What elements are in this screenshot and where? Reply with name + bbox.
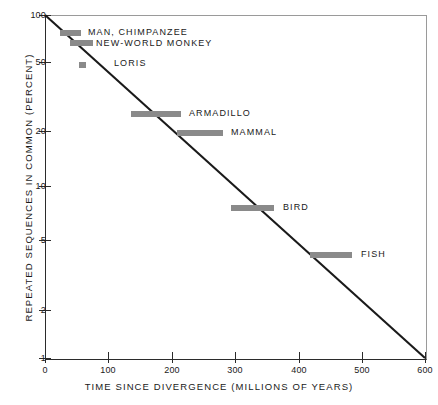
x-tick-label-100: 100 xyxy=(93,365,123,375)
data-label-man-chimpanzee: MAN, CHIMPANZEE xyxy=(88,27,188,38)
x-tick-mark-200 xyxy=(172,352,173,363)
data-bar-bird xyxy=(231,205,274,211)
y-tick-label-10: 10 xyxy=(36,181,46,191)
data-label-loris: LORIS xyxy=(114,58,147,69)
y-tick-label-100: 100 xyxy=(30,10,46,20)
x-tick-label-600: 600 xyxy=(410,365,438,375)
data-label-mammal: MAMMAL xyxy=(231,127,277,138)
x-tick-mark-500 xyxy=(362,352,363,363)
x-tick-label-200: 200 xyxy=(157,365,187,375)
data-bar-mammal xyxy=(177,130,223,136)
data-label-armadillo: ARMADILLO xyxy=(189,108,251,119)
y-tick-label-2: 2 xyxy=(41,305,46,315)
x-tick-mark-400 xyxy=(299,352,300,363)
data-label-fish: FISH xyxy=(361,249,386,260)
x-tick-label-400: 400 xyxy=(284,365,314,375)
data-bar-new-world-monkey xyxy=(70,40,93,46)
data-label-new-world-monkey: NEW-WORLD MONKEY xyxy=(96,38,212,49)
data-bar-man-chimpanzee xyxy=(60,30,81,36)
data-bar-armadillo xyxy=(131,111,181,117)
data-bar-fish xyxy=(310,252,352,258)
y-axis-title: REPEATED SEQUENCES IN COMMON (PERCENT) xyxy=(23,28,34,348)
chart-figure: 100 50 20 10 5 2 1 0 100 200 300 400 500… xyxy=(0,0,438,405)
plot-area-frame xyxy=(45,15,427,360)
x-tick-label-300: 300 xyxy=(220,365,250,375)
data-bar-loris xyxy=(79,62,86,68)
x-tick-mark-300 xyxy=(235,352,236,363)
y-tick-label-20: 20 xyxy=(36,126,46,136)
y-tick-label-50: 50 xyxy=(36,57,46,67)
y-tick-label-5: 5 xyxy=(41,235,46,245)
data-label-bird: BIRD xyxy=(283,202,309,213)
x-tick-mark-0 xyxy=(45,352,46,363)
x-tick-mark-600 xyxy=(425,352,426,363)
x-axis-title: TIME SINCE DIVERGENCE (MILLIONS OF YEARS… xyxy=(0,381,438,392)
x-tick-label-0: 0 xyxy=(35,365,55,375)
x-tick-label-500: 500 xyxy=(347,365,377,375)
x-tick-mark-100 xyxy=(108,352,109,363)
